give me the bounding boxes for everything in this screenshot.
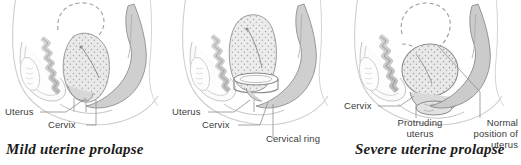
label-cervix-mild: Cervix — [48, 119, 76, 130]
panel-severe-uterine-prolapse: Cervix Protruding uterus Normal position… — [340, 0, 521, 165]
anatomy-illustration-cervical-ring — [168, 0, 343, 138]
label-cervix-severe: Cervix — [344, 100, 372, 111]
label-cervix-cervical-ring: Cervix — [202, 119, 230, 130]
panel-cervical-ring: Uterus Cervix Cervical ring — [168, 0, 343, 165]
label-uterus-mild: Uterus — [5, 106, 34, 117]
label-protruding-uterus: Protruding uterus — [388, 117, 452, 139]
anatomy-illustration-mild — [0, 0, 172, 138]
label-cervical-ring: Cervical ring — [266, 133, 320, 144]
uterine-prolapse-figure: Uterus Cervix Mild uterine prolapse — [0, 0, 521, 165]
panel-mild-uterine-prolapse: Uterus Cervix Mild uterine prolapse — [0, 0, 172, 165]
label-uterus-cervical-ring: Uterus — [172, 106, 201, 117]
caption-mild-uterine-prolapse: Mild uterine prolapse — [6, 141, 144, 158]
caption-severe-uterine-prolapse: Severe uterine prolapse — [355, 141, 505, 158]
